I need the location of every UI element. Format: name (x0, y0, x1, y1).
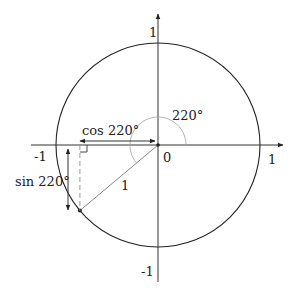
y-bottom-label: -1 (141, 264, 154, 279)
y-top-label: 1 (149, 25, 157, 40)
origin-label: 0 (163, 150, 171, 165)
right-angle-mark (80, 145, 87, 152)
x-right-label: 1 (268, 152, 276, 167)
cos-label: cos 220° (82, 123, 139, 138)
sin-label: sin 220° (15, 174, 70, 189)
diagram-canvas: 1 -1 -1 1 0 220° cos 220° sin 220° 1 (0, 0, 293, 290)
radius-label: 1 (121, 178, 129, 193)
unit-circle-diagram: 1 -1 -1 1 0 220° cos 220° sin 220° 1 (0, 0, 293, 290)
x-left-label: -1 (34, 149, 47, 164)
origin-point (156, 143, 160, 147)
angle-label: 220° (172, 108, 203, 123)
radius-line (80, 145, 158, 211)
